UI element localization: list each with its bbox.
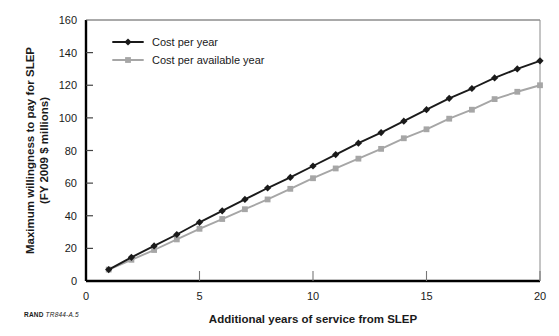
data-point [378, 129, 385, 136]
legend-item: Cost per year [113, 36, 218, 48]
data-point [468, 85, 475, 92]
data-point [196, 219, 203, 226]
series-line [109, 85, 540, 269]
data-point [446, 95, 453, 102]
y-tick-label: 80 [65, 145, 77, 157]
data-point [536, 57, 543, 64]
data-point [400, 118, 407, 125]
data-point [378, 146, 384, 152]
data-point [264, 184, 271, 191]
y-tick-label: 20 [65, 242, 77, 254]
y-tick-label: 120 [59, 79, 77, 91]
data-point [219, 216, 225, 222]
data-point [514, 89, 520, 95]
legend: Cost per yearCost per available year [113, 36, 265, 66]
data-point [287, 174, 294, 181]
series-cost-per-year [105, 57, 543, 273]
data-point [242, 206, 248, 212]
source-note: RAND TR844-A.5 [24, 311, 79, 318]
data-point [287, 186, 293, 192]
data-point [469, 107, 475, 113]
x-tick-label: 10 [307, 290, 319, 302]
data-point [424, 126, 430, 132]
y-tick-label: 100 [59, 112, 77, 124]
y-tick-label: 160 [59, 14, 77, 26]
data-point [309, 162, 316, 169]
y-axis-title-line2: (FY 2009 $ millions) [38, 97, 50, 204]
source-note-code: TR844-A.5 [46, 311, 79, 318]
x-tick-label: 5 [196, 290, 202, 302]
data-point [265, 197, 271, 203]
data-point [197, 226, 203, 232]
legend-swatch-marker [125, 57, 131, 63]
y-tick-label: 40 [65, 210, 77, 222]
y-axis-title-line1: Maximum willingness to pay for SLEP [24, 47, 36, 254]
data-point [514, 65, 521, 72]
data-point [491, 74, 498, 81]
data-point [492, 96, 498, 102]
legend-swatch-marker [124, 38, 131, 45]
y-tick-label: 140 [59, 47, 77, 59]
y-tick-label: 60 [65, 177, 77, 189]
data-point [355, 140, 362, 147]
legend-item: Cost per available year [113, 54, 265, 66]
x-tick-label: 15 [420, 290, 432, 302]
data-point [537, 82, 543, 88]
data-point [241, 196, 248, 203]
source-note-prefix: RAND [24, 311, 44, 318]
line-chart: 02040608010012014016005101520Additional … [0, 0, 559, 336]
data-point [310, 175, 316, 181]
y-tick-label: 0 [71, 275, 77, 287]
x-tick-label: 0 [83, 290, 89, 302]
series-line [109, 61, 540, 270]
data-point [446, 116, 452, 122]
series-cost-per-available-year [106, 82, 543, 272]
x-tick-label: 20 [534, 290, 546, 302]
data-point [423, 106, 430, 113]
legend-label: Cost per year [152, 36, 218, 48]
legend-label: Cost per available year [152, 54, 265, 66]
data-point [356, 156, 362, 162]
data-point [332, 151, 339, 158]
data-point [333, 166, 339, 172]
x-axis-title: Additional years of service from SLEP [209, 313, 418, 325]
data-point [219, 207, 226, 214]
data-point [401, 135, 407, 141]
chart-figure: 02040608010012014016005101520Additional … [0, 0, 559, 336]
